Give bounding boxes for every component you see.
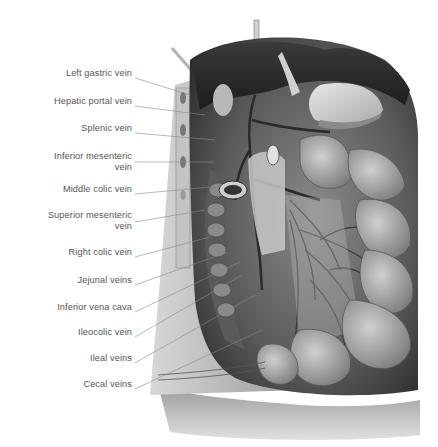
label-inferior-vena-cava: Inferior vena cava bbox=[57, 302, 132, 313]
label-ileocolic-vein: Ileocolic vein bbox=[78, 327, 132, 338]
label-right-colic-vein: Right colic vein bbox=[69, 247, 132, 258]
label-line-1: Inferior mesenteric bbox=[54, 151, 132, 162]
label-cecal-veins: Cecal veins bbox=[83, 379, 132, 390]
label-line-1: Superior mesenteric bbox=[48, 210, 132, 221]
label-line-2: vein bbox=[54, 162, 132, 173]
label-inferior-mesenteric-vein: Inferior mesenteric vein bbox=[54, 151, 132, 173]
label-jejunal-veins: Jejunal veins bbox=[78, 275, 132, 286]
label-line-2: vein bbox=[48, 221, 132, 232]
label-left-gastric-vein: Left gastric vein bbox=[66, 68, 132, 79]
label-middle-colic-vein: Middle colic vein bbox=[63, 184, 132, 195]
label-hepatic-portal-vein: Hepatic portal vein bbox=[54, 96, 132, 107]
label-ileal-veins: Ileal veins bbox=[90, 353, 132, 364]
label-superior-mesenteric-vein: Superior mesenteric vein bbox=[48, 210, 132, 232]
gallbladder bbox=[213, 84, 233, 116]
label-splenic-vein: Splenic vein bbox=[81, 123, 132, 134]
anatomy-figure: Left gastric vein Hepatic portal vein Sp… bbox=[0, 0, 438, 447]
